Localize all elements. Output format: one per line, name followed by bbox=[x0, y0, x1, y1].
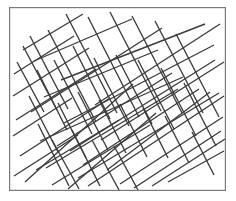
figure-container bbox=[0, 0, 236, 201]
plot-area-fill bbox=[9, 7, 226, 191]
line-arrangement-plot bbox=[0, 0, 236, 201]
